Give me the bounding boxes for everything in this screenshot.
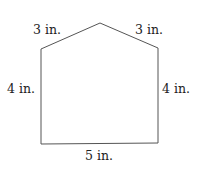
pentagon-diagram: 3 in. 3 in. 4 in. 4 in. 5 in. xyxy=(0,0,200,172)
label-left-side: 4 in. xyxy=(7,83,35,96)
label-top-left-side: 3 in. xyxy=(33,24,61,37)
label-top-right-side: 3 in. xyxy=(135,24,163,37)
label-right-side: 4 in. xyxy=(162,83,190,96)
label-bottom-side: 5 in. xyxy=(85,150,113,163)
